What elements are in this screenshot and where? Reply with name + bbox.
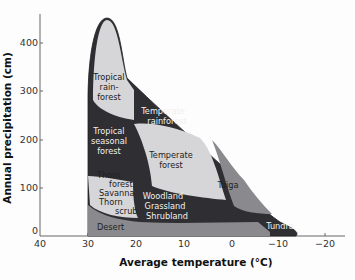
x-tick-0: 0 <box>229 238 235 249</box>
label-thorn-5: scrub <box>115 206 138 216</box>
x-tick-30: 30 <box>82 238 94 249</box>
label-taiga: Taiga <box>216 180 238 190</box>
x-axis-title: Average temperature (°C) <box>119 256 272 268</box>
x-tick-10: 10 <box>178 238 190 249</box>
label-tropical-seasonal-1: Tropical <box>92 126 124 136</box>
label-tropical-seasonal-2: seasonal <box>91 136 127 146</box>
label-temperate-rainforest-2: rainforest <box>147 116 187 126</box>
y-tick-100: 100 <box>20 182 38 193</box>
label-tropical-rainforest-2: rain- <box>100 82 119 92</box>
x-tick-neg10: −10 <box>268 238 288 249</box>
label-tropical-seasonal-3: forest <box>97 146 121 156</box>
label-temperate-rainforest-1: Temperate <box>140 106 185 116</box>
y-axis-title: Annual precipitation (cm) <box>1 52 13 203</box>
y-tick-300: 300 <box>20 85 38 96</box>
label-woodland: Woodland <box>143 191 184 201</box>
biome-climate-chart: 0 100 200 300 400 40 30 20 10 0 −10 −20 … <box>0 0 355 280</box>
label-shrubland: Shrubland <box>146 211 188 221</box>
y-tick-400: 400 <box>20 37 38 48</box>
label-temperate-forest-1: Temperate <box>148 150 193 160</box>
x-tick-20: 20 <box>130 238 142 249</box>
y-tick-0: 0 <box>32 225 38 236</box>
label-tropical-rainforest-3: forest <box>97 92 121 102</box>
label-temperate-forest-2: forest <box>159 160 183 170</box>
label-desert: Desert <box>97 222 125 232</box>
label-tundra: Tundra <box>265 221 294 231</box>
y-tick-200: 200 <box>20 134 38 145</box>
chart-canvas: 0 100 200 300 400 40 30 20 10 0 −10 −20 … <box>0 0 355 280</box>
x-tick-40: 40 <box>34 238 46 249</box>
region-tropical-rainforest <box>93 20 134 120</box>
label-grassland: Grassland <box>145 201 186 211</box>
x-tick-neg20: −20 <box>315 238 335 249</box>
label-tropical-rainforest-1: Tropical <box>92 72 124 82</box>
